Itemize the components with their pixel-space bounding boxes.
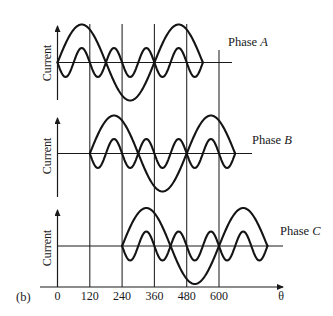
theta-symbol: θ xyxy=(278,289,284,303)
tick-label-360: 360 xyxy=(145,289,163,303)
tick-label-600: 600 xyxy=(210,289,228,303)
theta-axis: 0 120 240 360 480 600 θ (b) xyxy=(16,287,284,304)
phase-c-y-label: Current xyxy=(40,229,54,266)
phase-a-y-label: Current xyxy=(40,44,54,81)
tick-label-0: 0 xyxy=(55,289,61,303)
panel-label: (b) xyxy=(16,290,31,304)
phase-c-label: Phase C xyxy=(280,224,321,238)
phase-b-y-label: Current xyxy=(40,137,54,174)
tick-label-120: 120 xyxy=(81,289,99,303)
three-phase-current-diagram: Current Phase A Current Phase B Current … xyxy=(0,0,333,316)
tick-label-240: 240 xyxy=(113,289,131,303)
phase-a-label: Phase A xyxy=(228,35,268,49)
phase-b-panel: Current Phase B xyxy=(40,116,292,198)
tick-label-480: 480 xyxy=(178,289,196,303)
phase-b-label: Phase B xyxy=(252,133,292,147)
phase-c-panel: Current Phase C xyxy=(40,208,321,287)
